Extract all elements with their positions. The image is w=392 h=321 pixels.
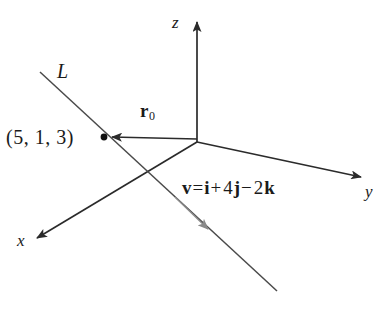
- k-coefficient: 2: [253, 177, 265, 198]
- position-vector-subscript: 0: [148, 109, 155, 123]
- figure-canvas: z y x L (5, 1, 3) r0 v=i+4j−2k: [0, 0, 392, 321]
- point-coordinates-label: (5, 1, 3): [6, 127, 74, 147]
- y-axis-label: y: [365, 183, 373, 200]
- equals-sign: =: [192, 177, 205, 198]
- j-coefficient: 4: [222, 177, 234, 198]
- position-vector-arrow: [112, 137, 197, 139]
- line-L-label: L: [57, 61, 68, 81]
- vector-v-symbol: v: [182, 177, 192, 198]
- point-marker: [101, 134, 108, 141]
- unit-vector-k: k: [264, 177, 275, 198]
- minus-sign: −: [240, 177, 253, 198]
- unit-vector-i: i: [204, 177, 209, 198]
- direction-vector-equation: v=i+4j−2k: [182, 178, 275, 197]
- diagram-svg: [0, 0, 392, 321]
- position-vector-label: r0: [140, 101, 155, 122]
- x-axis-label: x: [17, 232, 25, 249]
- y-axis: [197, 142, 361, 177]
- x-axis: [37, 142, 197, 238]
- direction-vector-arrow: [175, 197, 208, 229]
- z-axis-label: z: [172, 14, 179, 31]
- plus-sign: +: [210, 177, 223, 198]
